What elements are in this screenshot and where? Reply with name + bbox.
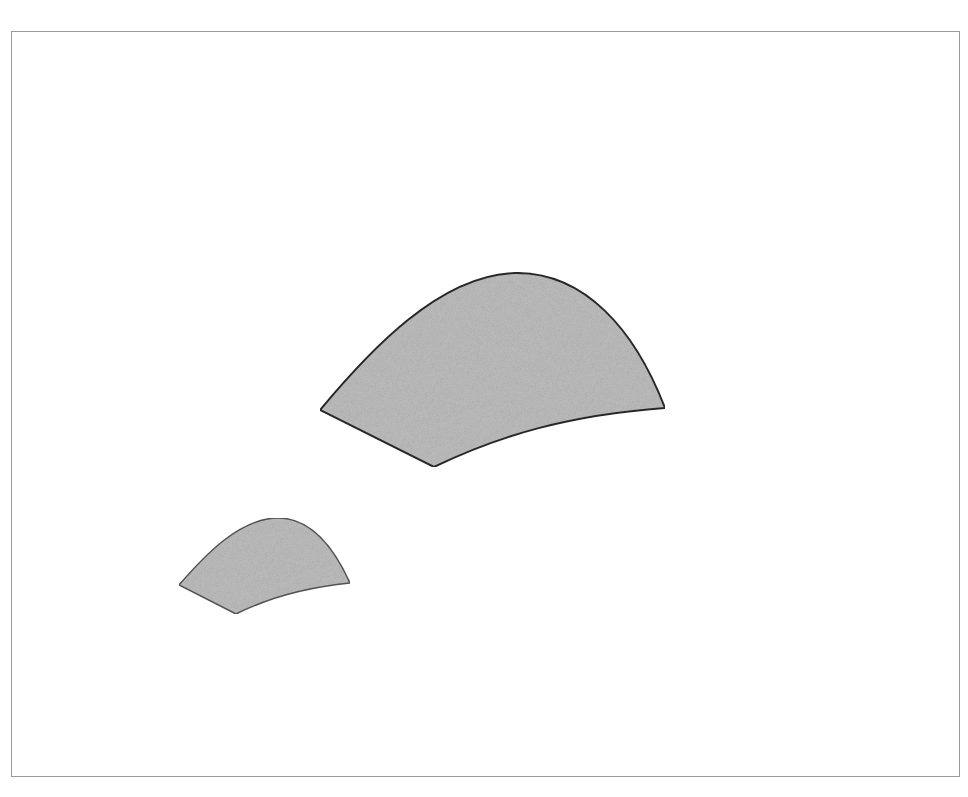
diagram-canvas — [0, 0, 968, 797]
small-curved-patch-shape — [179, 518, 350, 614]
large-curved-patch-shape — [320, 273, 665, 467]
